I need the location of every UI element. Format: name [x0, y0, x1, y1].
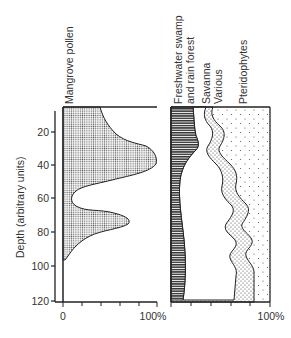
y-tick-120: 120 [31, 295, 49, 307]
stacked-panel: 100% [171, 107, 284, 322]
x-left-tick-100: 100% [140, 310, 167, 322]
mangrove-panel: 0 100% [55, 107, 166, 322]
column-titles: Mangrove pollen Freshwater swamp and rai… [63, 15, 249, 104]
y-tick-80: 80 [37, 226, 49, 238]
y-tick-20: 20 [37, 126, 49, 138]
y-axis: 20 40 60 80 100 120 Depth (arbitrary uni… [14, 111, 55, 307]
y-tick-60: 60 [37, 192, 49, 204]
title-freshwater-line2: and rain forest [184, 37, 196, 104]
x-right-tick-100: 100% [258, 310, 285, 322]
pollen-diagram: Mangrove pollen Freshwater swamp and rai… [0, 0, 291, 338]
title-savanna: Savanna [200, 62, 212, 104]
x-left-tick-0: 0 [60, 310, 66, 322]
title-various: Various [212, 69, 224, 104]
title-mangrove: Mangrove pollen [63, 26, 75, 104]
title-pteridophytes: Pteridophytes [237, 40, 249, 104]
y-tick-100: 100 [31, 260, 49, 272]
title-freshwater-line1: Freshwater swamp [172, 15, 184, 104]
y-tick-40: 40 [37, 159, 49, 171]
y-axis-label: Depth (arbitrary units) [14, 156, 26, 258]
